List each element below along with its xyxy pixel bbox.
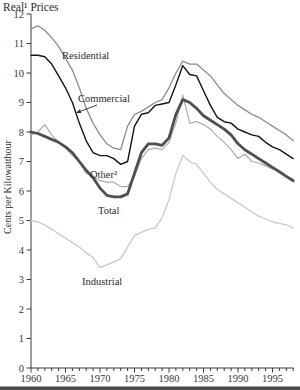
series-label-total: Total <box>98 205 120 216</box>
y-tick-label: 2 <box>19 304 24 315</box>
y-tick-label: 9 <box>19 97 24 108</box>
x-tick-label: 1960 <box>21 373 42 384</box>
series-label-commercial: Commercial <box>78 93 130 104</box>
y-tick-label: 4 <box>19 245 25 256</box>
series-line-residential <box>31 26 293 150</box>
chart-figure: Real¹ Prices Cents per Kilowatthour 0123… <box>0 0 300 390</box>
y-tick-label: 11 <box>14 38 24 49</box>
x-tick-label: 1970 <box>90 373 111 384</box>
x-tick-label: 1980 <box>159 373 180 384</box>
y-tick-label: 5 <box>19 215 24 226</box>
y-tick-label: 3 <box>19 274 24 285</box>
y-tick-label: 7 <box>19 156 24 167</box>
y-tick-label: 10 <box>14 68 25 79</box>
y-tick-label: 1 <box>19 333 24 344</box>
series-line-commercial <box>31 55 293 164</box>
chart-title: Real¹ Prices <box>3 1 59 13</box>
plot-area: 0123456789101112196019651970197519801985… <box>14 9 294 384</box>
bottom-border <box>0 386 300 390</box>
x-tick-label: 1985 <box>193 373 214 384</box>
label-arrow-line <box>81 105 97 111</box>
x-tick-label: 1965 <box>55 373 76 384</box>
series-line-total <box>31 100 293 197</box>
x-tick-label: 1975 <box>124 373 145 384</box>
y-tick-label: 12 <box>14 9 25 20</box>
series-line-other <box>31 95 293 187</box>
series-label-other: Other² <box>90 169 117 180</box>
x-tick-label: 1990 <box>228 373 249 384</box>
y-tick-label: 6 <box>19 186 24 197</box>
price-line-chart: Real¹ Prices Cents per Kilowatthour 0123… <box>0 0 300 387</box>
series-line-industrial <box>31 156 293 268</box>
label-arrowhead <box>76 109 81 113</box>
y-tick-label: 8 <box>19 127 24 138</box>
x-tick-label: 1995 <box>262 373 283 384</box>
series-label-residential: Residential <box>62 50 109 61</box>
series-label-industrial: Industrial <box>82 276 122 287</box>
y-axis-label: Cents per Kilowatthour <box>2 139 13 234</box>
